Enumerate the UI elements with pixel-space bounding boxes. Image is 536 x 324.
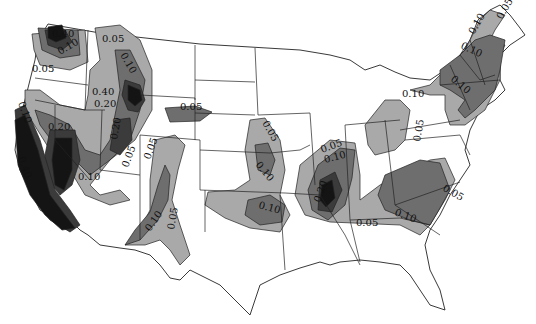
label-tn-005: 0.05: [356, 217, 378, 228]
label-mt-020: 0.20: [94, 98, 116, 109]
label-mt-040: 0.40: [92, 86, 114, 97]
label-ny-010: 0.10: [402, 88, 424, 99]
label-nv-020: 0.20: [48, 121, 70, 132]
label-az-010: 0.10: [78, 171, 100, 182]
us-contour-map: 0.40 0.10 0.05 0.05 0.10 0.40 0.20 0.10 …: [0, 0, 536, 324]
label-ne-005: 0.05: [180, 101, 202, 112]
label-or-005: 0.05: [32, 63, 54, 74]
label-id-005: 0.05: [102, 33, 124, 44]
